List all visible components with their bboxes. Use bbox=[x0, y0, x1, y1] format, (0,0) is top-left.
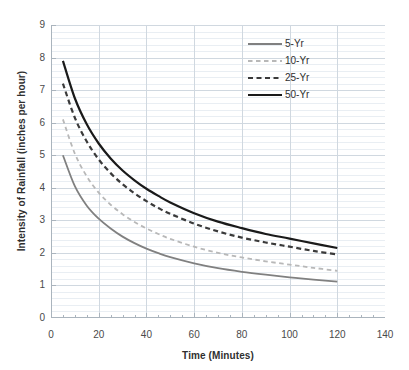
legend-item-10-yr[interactable]: 10-Yr bbox=[248, 52, 309, 69]
series-line-5-yr bbox=[63, 155, 337, 281]
y-tick-7: 7 bbox=[26, 84, 45, 96]
legend-line-swatch-icon bbox=[248, 38, 282, 50]
y-tick-label: 2 bbox=[26, 247, 45, 258]
x-tick-label: 80 bbox=[236, 329, 247, 340]
y-tick-label: 3 bbox=[26, 214, 45, 225]
x-tick-label: 40 bbox=[141, 329, 152, 340]
x-tick-label: 0 bbox=[48, 329, 54, 340]
legend-line-swatch-icon bbox=[248, 55, 282, 67]
y-tick-label: 8 bbox=[26, 52, 45, 63]
y-tick-9: 9 bbox=[26, 19, 45, 31]
x-tick-20: 20 bbox=[79, 324, 119, 337]
series-line-25-yr bbox=[63, 84, 337, 255]
y-tick-3: 3 bbox=[26, 214, 45, 226]
x-tick-label: 140 bbox=[377, 329, 394, 340]
legend-item-label: 50-Yr bbox=[285, 89, 309, 101]
y-tick-2: 2 bbox=[26, 247, 45, 259]
x-tick-label: 100 bbox=[281, 329, 298, 340]
legend-line-swatch-icon bbox=[248, 89, 282, 101]
x-tick-100: 100 bbox=[270, 324, 310, 337]
legend-item-5-yr[interactable]: 5-Yr bbox=[248, 35, 309, 52]
x-tick-label: 60 bbox=[189, 329, 200, 340]
y-tick-label: 1 bbox=[26, 279, 45, 290]
legend-item-25-yr[interactable]: 25-Yr bbox=[248, 69, 309, 86]
chart-legend: 5-Yr10-Yr25-Yr50-Yr bbox=[245, 33, 312, 105]
x-tick-80: 80 bbox=[222, 324, 262, 337]
x-tick-label: 120 bbox=[329, 329, 346, 340]
y-axis-title: Intensity of Rainfall (inches per hour) bbox=[16, 11, 27, 311]
y-tick-6: 6 bbox=[26, 117, 45, 129]
plot-area bbox=[51, 25, 385, 318]
x-tick-120: 120 bbox=[317, 324, 357, 337]
y-tick-label: 9 bbox=[26, 19, 45, 30]
x-axis-title: Time (Minutes) bbox=[51, 350, 385, 361]
series-line-10-yr bbox=[63, 119, 337, 270]
legend-item-label: 10-Yr bbox=[285, 55, 309, 67]
y-tick-label: 5 bbox=[26, 149, 45, 160]
y-tick-1: 1 bbox=[26, 279, 45, 291]
legend-item-label: 25-Yr bbox=[285, 72, 309, 84]
x-tick-0: 0 bbox=[31, 324, 71, 337]
x-tick-140: 140 bbox=[365, 324, 405, 337]
y-tick-label: 0 bbox=[26, 312, 45, 323]
series-lines bbox=[51, 25, 385, 318]
y-tick-8: 8 bbox=[26, 52, 45, 64]
y-tick-0: 0 bbox=[26, 312, 45, 324]
x-tick-label: 20 bbox=[93, 329, 104, 340]
legend-item-label: 5-Yr bbox=[285, 38, 304, 50]
y-tick-label: 6 bbox=[26, 117, 45, 128]
legend-item-50-yr[interactable]: 50-Yr bbox=[248, 86, 309, 103]
rainfall-idf-chart: 0123456789 020406080100120140 Intensity … bbox=[0, 0, 409, 370]
y-tick-label: 7 bbox=[26, 84, 45, 95]
x-tick-60: 60 bbox=[174, 324, 214, 337]
y-tick-4: 4 bbox=[26, 182, 45, 194]
y-tick-label: 4 bbox=[26, 182, 45, 193]
legend-line-swatch-icon bbox=[248, 72, 282, 84]
x-tick-40: 40 bbox=[126, 324, 166, 337]
y-tick-5: 5 bbox=[26, 149, 45, 161]
